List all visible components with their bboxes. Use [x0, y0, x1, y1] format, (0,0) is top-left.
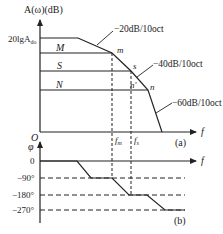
y-tick-20lgAdo: 20lgAdo	[8, 34, 37, 45]
slope-leader-40	[137, 65, 153, 77]
phase-tick-90: −90°	[17, 173, 35, 183]
slope-leader-60	[156, 103, 172, 113]
slope-label-60: −60dB/10oct	[172, 98, 222, 108]
phase-plot: φ f 0 −90° −180° −270° (b)	[12, 141, 205, 227]
point-label-m: m	[117, 45, 124, 55]
slope-leader-20	[97, 31, 113, 45]
magnitude-x-axis-label: f	[201, 126, 205, 137]
magnitude-y-axis-label: A(ω)(dB)	[24, 4, 63, 16]
panel-label-b: (b)	[174, 215, 186, 227]
level-label-S: S	[57, 60, 62, 71]
phase-y-axis-label: φ	[28, 141, 34, 152]
level-label-M: M	[55, 42, 65, 53]
fs-label: fs	[134, 135, 140, 146]
slope-label-20: −20dB/10oct	[114, 24, 164, 34]
slope-label-40: −40dB/10oct	[153, 59, 203, 69]
fm-label: fm	[115, 135, 123, 146]
phase-x-axis-label: f	[201, 155, 205, 166]
phase-tick-270: −270°	[12, 205, 35, 215]
phase-tick-0: 0	[30, 156, 35, 166]
point-label-n: n	[150, 82, 155, 92]
panel-label-a: (a)	[175, 137, 186, 149]
phase-tick-180: −180°	[12, 190, 35, 200]
bode-diagram: A(ω)(dB) 20lgAdo O f M S N m s n' n −20d…	[0, 0, 223, 234]
point-label-s: s	[133, 61, 137, 71]
level-label-N: N	[55, 79, 64, 90]
